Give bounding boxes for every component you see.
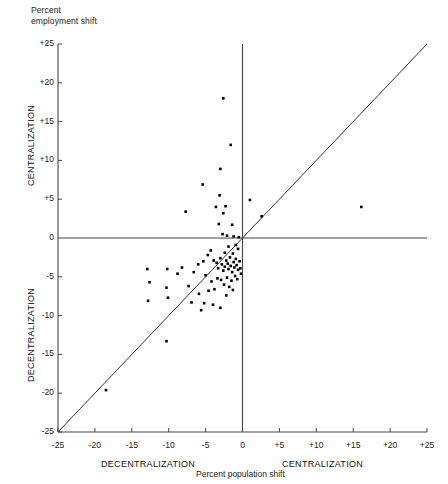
data-point [237, 248, 240, 251]
data-point [235, 264, 238, 267]
data-point [218, 194, 221, 197]
data-point [165, 340, 168, 343]
data-point [219, 307, 222, 310]
x-tick-label: +15 [336, 440, 370, 450]
data-point [192, 271, 195, 274]
data-point [222, 97, 225, 100]
x-tick-label: -5 [189, 440, 223, 450]
x-tick-label: +5 [262, 440, 296, 450]
data-point [198, 293, 201, 296]
data-point [215, 206, 218, 209]
y-axis-label-centralization: CENTRALIZATION [26, 105, 36, 186]
data-point [165, 286, 168, 289]
data-point [226, 234, 229, 237]
y-tick-label: -25 [22, 426, 54, 436]
data-point [229, 256, 232, 259]
data-point [231, 224, 234, 227]
data-point [203, 302, 206, 305]
data-point [221, 263, 224, 266]
data-point [209, 249, 212, 252]
data-point [207, 289, 210, 292]
data-point [181, 266, 184, 269]
data-point [204, 274, 207, 277]
data-point [235, 258, 238, 261]
x-axis-label-decentralization: DECENTRALIZATION [101, 459, 195, 469]
data-point [249, 199, 252, 202]
data-point [200, 309, 203, 312]
data-point [105, 389, 108, 392]
data-point [197, 263, 200, 266]
data-point [222, 212, 225, 215]
y-axis-label-decentralization: DECENTRALIZATION [26, 288, 36, 382]
data-point [236, 278, 239, 281]
data-point [223, 265, 226, 268]
data-point [184, 210, 187, 213]
y-tick-label: +25 [22, 38, 54, 48]
x-tick-label: 0 [226, 440, 260, 450]
x-tick-label: +20 [373, 440, 407, 450]
data-point [224, 205, 227, 208]
data-point [219, 168, 222, 171]
data-point [260, 215, 263, 218]
x-axis-unit-label: Percent population shift [196, 469, 285, 479]
data-point [221, 233, 224, 236]
data-point [240, 272, 243, 275]
data-point [239, 267, 242, 270]
data-point [227, 268, 230, 271]
y-tick-label: +5 [22, 193, 54, 203]
data-point [212, 259, 215, 262]
data-point [233, 266, 236, 269]
data-point [201, 183, 204, 186]
data-point [237, 269, 240, 272]
data-point [229, 265, 232, 268]
data-point [217, 267, 220, 270]
data-point [146, 268, 149, 271]
data-point [232, 289, 235, 292]
data-point [167, 296, 170, 299]
x-tick-label: -25 [41, 440, 75, 450]
data-point [213, 288, 216, 291]
data-point [225, 259, 228, 262]
data-point [216, 277, 219, 280]
data-point [223, 251, 226, 254]
data-point [187, 285, 190, 288]
data-point [235, 244, 238, 247]
plot-canvas [0, 0, 448, 484]
x-tick-label: +10 [299, 440, 333, 450]
data-point [226, 262, 229, 265]
data-point [207, 254, 210, 257]
data-point [212, 303, 215, 306]
data-point [228, 286, 231, 289]
scatter-plot-figure: Percent employment shift -25-20-15-10-50… [0, 0, 448, 484]
x-tick-label: -15 [115, 440, 149, 450]
x-tick-label: -20 [78, 440, 112, 450]
data-point [238, 260, 241, 263]
data-point [220, 279, 223, 282]
x-axis-label-centralization: CENTRALIZATION [282, 459, 363, 469]
data-point [229, 144, 232, 147]
data-point [190, 301, 193, 304]
data-point [234, 275, 237, 278]
data-point [176, 272, 179, 275]
y-tick-label: 0 [22, 232, 54, 242]
data-point [231, 271, 234, 274]
data-point [148, 281, 151, 284]
data-point [360, 206, 363, 209]
data-point [232, 235, 235, 238]
data-point [232, 252, 235, 255]
x-tick-label: -10 [152, 440, 186, 450]
data-point [232, 261, 235, 264]
data-point [238, 236, 241, 239]
y-tick-label: -20 [22, 387, 54, 397]
y-tick-label: -5 [22, 271, 54, 281]
data-point [210, 280, 213, 283]
data-point [166, 268, 169, 271]
data-point [225, 294, 228, 297]
y-tick-label: +20 [22, 77, 54, 87]
data-point [202, 260, 205, 263]
data-point [147, 300, 150, 303]
data-point [222, 269, 225, 272]
data-point [227, 245, 230, 248]
data-point [219, 257, 222, 260]
data-point [215, 262, 218, 265]
